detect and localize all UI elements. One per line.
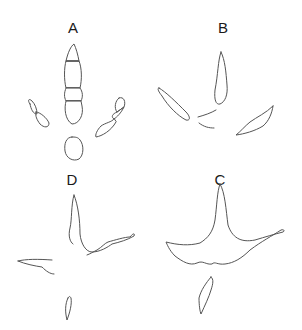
footprint-b	[158, 52, 273, 135]
footprint-a	[29, 44, 125, 160]
footprints-diagram	[0, 0, 302, 330]
footprint-c	[166, 184, 284, 314]
footprint-d	[18, 195, 134, 320]
